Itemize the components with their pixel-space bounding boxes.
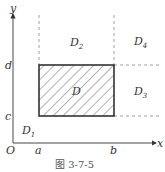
region-diagram: y x O a b c d D D1 D2 D3 D4 图 3-7-5 xyxy=(0,0,165,172)
region-label-d3: D3 xyxy=(133,85,148,100)
origin-label: O xyxy=(6,144,15,157)
tick-d: d xyxy=(5,59,12,72)
region-label-d2: D2 xyxy=(69,36,84,51)
region-label-d1: D1 xyxy=(21,124,35,139)
tick-c: c xyxy=(5,110,11,123)
x-axis-label: x xyxy=(157,137,164,150)
figure-caption: 图 3-7-5 xyxy=(55,159,94,170)
region-label-d4: D4 xyxy=(133,35,147,50)
region-label-d: D xyxy=(71,85,81,98)
y-axis-label: y xyxy=(9,2,17,15)
tick-a: a xyxy=(35,144,42,157)
tick-b: b xyxy=(110,144,117,157)
